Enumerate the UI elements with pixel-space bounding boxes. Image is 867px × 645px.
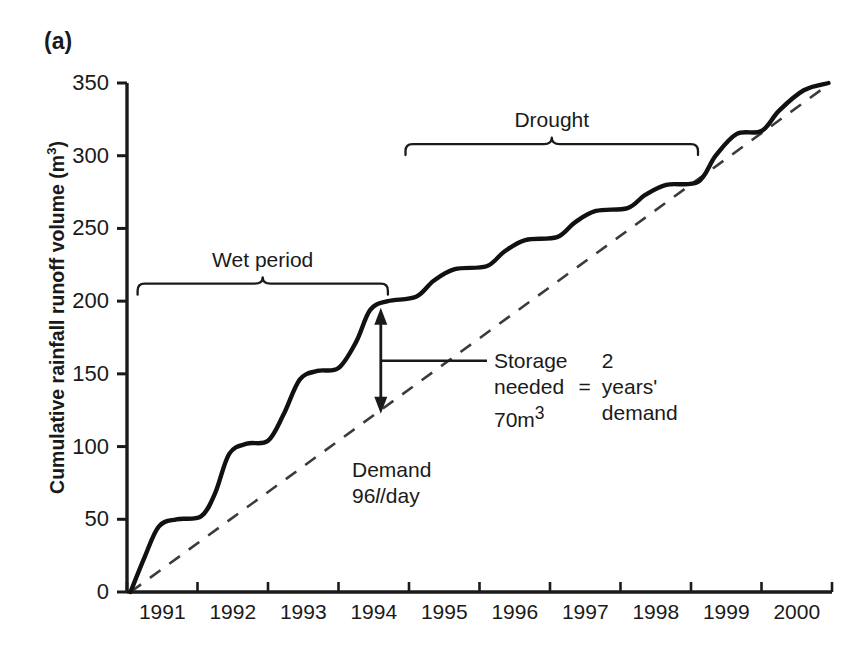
wet-period-bracket [138, 277, 388, 294]
demand-line [131, 84, 829, 592]
demand-annotation-line2: 96l/day [352, 483, 431, 509]
years-line3: demand [602, 400, 678, 433]
y-tick-label: 100 [39, 436, 109, 458]
y-tick-label: 200 [39, 290, 109, 312]
y-tick-label: 50 [39, 508, 109, 530]
x-tick-label: 1993 [263, 601, 343, 622]
x-tick-label: 1991 [122, 601, 202, 622]
storage-value-superscript: 3 [535, 403, 545, 423]
storage-line2: needed [494, 374, 568, 400]
demand-annotation: Demand 96l/day [352, 457, 431, 509]
storage-equals-spacer2 [579, 400, 591, 433]
x-tick-label: 1998 [616, 601, 696, 622]
x-tick-label: 1994 [334, 601, 414, 622]
wet-period-label: Wet period [113, 248, 413, 272]
years-line2: years' [602, 374, 678, 400]
demand-unit-rest: /day [380, 484, 420, 507]
y-tick-label: 250 [39, 217, 109, 239]
storage-line3: 70m3 [494, 400, 568, 433]
y-tick-label: 350 [39, 72, 109, 94]
storage-value: 70m [494, 408, 535, 431]
drought-label: Drought [402, 108, 702, 132]
y-tick-label: 0 [39, 581, 109, 603]
x-tick-label: 1996 [475, 601, 555, 622]
y-tick-label: 300 [39, 145, 109, 167]
x-tick-label: 1999 [686, 601, 766, 622]
storage-equals-sign: = [579, 374, 591, 400]
chart-canvas [0, 0, 867, 645]
storage-line1: Storage [494, 348, 568, 374]
years-line1: 2 [602, 348, 678, 374]
y-tick-label: 150 [39, 363, 109, 385]
x-tick-label: 1995 [404, 601, 484, 622]
demand-value: 96 [352, 484, 375, 507]
drought-bracket [406, 138, 699, 155]
storage-arrow-head-up [374, 308, 387, 325]
x-tick-label: 2000 [757, 601, 837, 622]
demand-annotation-line1: Demand [352, 457, 431, 483]
x-tick-label: 1992 [193, 601, 273, 622]
storage-equals-spacer [579, 348, 591, 374]
x-tick-label: 1997 [545, 601, 625, 622]
figure-panel-a: (a) Cumulative rainfall runoff volume (m… [0, 0, 867, 645]
storage-annotation: Storage 2 needed = years' 70m3 demand [494, 348, 678, 433]
